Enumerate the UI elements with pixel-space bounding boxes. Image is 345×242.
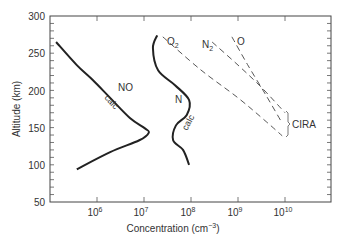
series-layer xyxy=(56,35,285,169)
series-n-line xyxy=(212,42,285,113)
y-axis-label: Altitude (km) xyxy=(11,81,22,137)
label-no-calc: calc xyxy=(103,93,121,112)
x-tick-1e9: 109 xyxy=(227,206,242,218)
series-o-line xyxy=(232,37,282,123)
y-axis-ticks xyxy=(50,23,331,194)
y-tick-200: 200 xyxy=(28,86,45,97)
series-n-line xyxy=(153,35,190,164)
y-tick-labels: 50 100 150 200 250 300 xyxy=(28,11,45,208)
x-tick-1e10: 1010 xyxy=(274,206,293,218)
y-tick-150: 150 xyxy=(28,123,45,134)
x-tick-1e6: 106 xyxy=(87,206,102,218)
label-no: NO xyxy=(118,82,133,93)
y-tick-50: 50 xyxy=(34,197,46,208)
cira-bracket xyxy=(286,111,290,137)
series-no-line xyxy=(56,42,149,169)
y-tick-100: 100 xyxy=(28,160,45,171)
plot-frame xyxy=(50,16,331,202)
chart: 50 100 150 200 250 300 Altitude (km) 106… xyxy=(0,0,345,242)
x-tick-1e7: 107 xyxy=(133,206,148,218)
label-o2: O2 xyxy=(167,36,179,49)
label-n: N xyxy=(175,94,182,105)
label-o: O xyxy=(237,36,245,47)
label-cira: CIRA xyxy=(292,119,316,130)
x-axis-label: Concentration (cm−3) xyxy=(126,222,219,234)
label-n2: N2 xyxy=(202,39,213,52)
x-tick-labels: 106 107 108 109 1010 xyxy=(87,206,292,218)
x-tick-1e8: 108 xyxy=(180,206,195,218)
y-tick-300: 300 xyxy=(28,11,45,22)
x-axis-ticks xyxy=(97,16,285,202)
label-n-calc: calc xyxy=(180,113,197,132)
y-tick-250: 250 xyxy=(28,48,45,59)
